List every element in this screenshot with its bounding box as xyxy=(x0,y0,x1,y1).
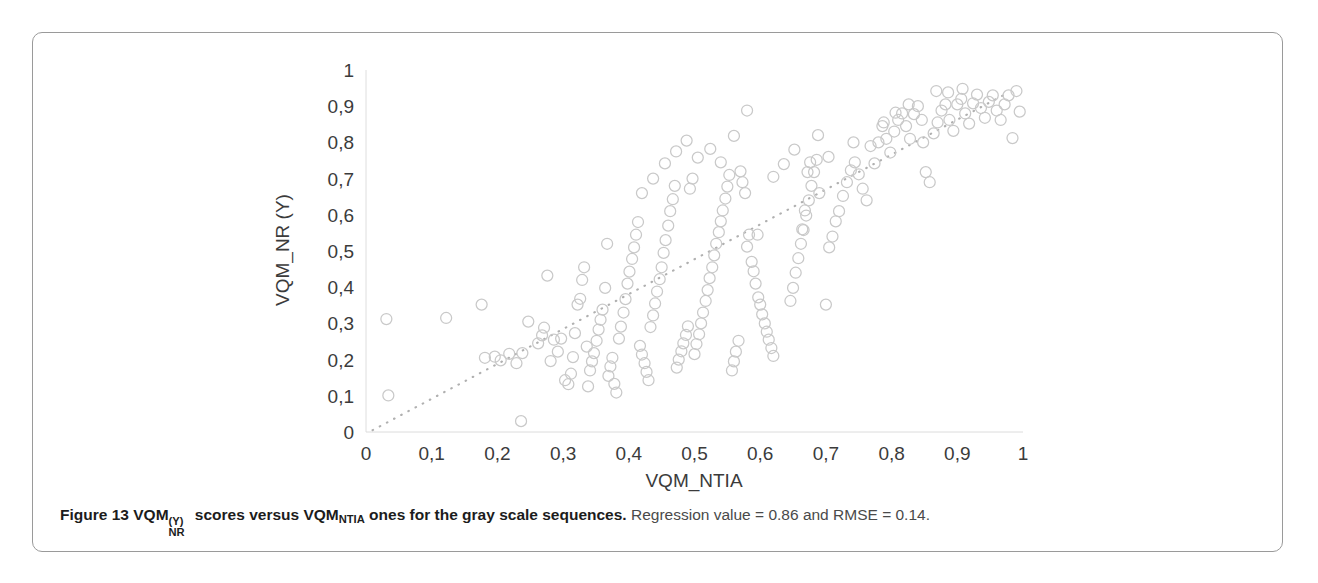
x-tick-label: 1 xyxy=(1018,443,1029,464)
y-tick-label: 0,8 xyxy=(328,132,354,153)
y-axis-tick-labels: 00,10,20,30,40,50,60,70,80,91 xyxy=(328,60,355,443)
x-tick-label: 0,7 xyxy=(813,443,839,464)
y-tick-label: 0,9 xyxy=(328,96,354,117)
y-tick-label: 0,1 xyxy=(328,386,354,407)
figure-caption: Figure 13 VQM(Y)NR scores versus VQMNTIA… xyxy=(60,505,1260,527)
caption-bold-tail: ones for the gray scale sequences. xyxy=(365,506,627,523)
y-tick-label: 0,6 xyxy=(328,205,354,226)
y-tick-label: 1 xyxy=(343,60,354,81)
x-tick-label: 0,3 xyxy=(550,443,576,464)
x-tick-label: 0,4 xyxy=(616,443,643,464)
x-tick-label: 0,2 xyxy=(484,443,510,464)
x-tick-label: 0,8 xyxy=(878,443,904,464)
x-tick-label: 0,5 xyxy=(681,443,707,464)
x-axis-title: VQM_NTIA xyxy=(645,470,742,492)
caption-middle-text: scores versus VQM xyxy=(191,506,339,523)
x-tick-label: 0 xyxy=(361,443,372,464)
y-tick-label: 0,5 xyxy=(328,241,354,262)
scatter-chart: 00,10,20,30,40,50,60,70,80,91 00,10,20,3… xyxy=(0,0,1318,583)
caption-metric-subscript: NR xyxy=(169,525,185,540)
figure-container: 00,10,20,30,40,50,60,70,80,91 00,10,20,3… xyxy=(0,0,1318,583)
y-tick-label: 0,7 xyxy=(328,169,354,190)
x-axis-tick-labels: 00,10,20,30,40,50,60,70,80,91 xyxy=(361,443,1029,464)
y-tick-label: 0,2 xyxy=(328,350,354,371)
x-tick-label: 0,1 xyxy=(418,443,444,464)
x-tick-label: 0,9 xyxy=(944,443,970,464)
y-axis-title: VQM_NR (Y) xyxy=(272,194,294,306)
caption-stats-text: Regression value = 0.86 and RMSE = 0.14. xyxy=(627,506,930,523)
y-tick-label: 0,4 xyxy=(328,277,355,298)
x-tick-label: 0,6 xyxy=(747,443,773,464)
caption-ntia-subscript: NTIA xyxy=(339,513,365,525)
caption-metric-main: VQM xyxy=(133,506,168,523)
y-tick-label: 0 xyxy=(343,422,354,443)
y-tick-label: 0,3 xyxy=(328,313,354,334)
caption-figure-number: Figure 13 xyxy=(60,506,129,523)
